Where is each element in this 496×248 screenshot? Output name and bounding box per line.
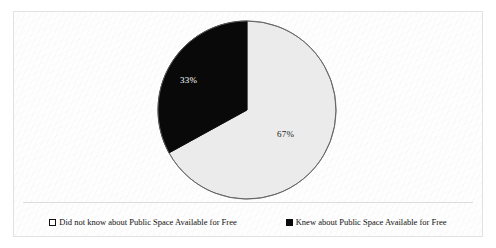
- legend-filled-square-icon: [286, 219, 293, 226]
- pie-data-label-did-not-know: 67%: [277, 129, 294, 139]
- legend-open-square-icon: [49, 219, 56, 226]
- chart-legend: Did not know about Public Space Availabl…: [14, 210, 482, 234]
- legend-label-knew: Knew about Public Space Available for Fr…: [296, 218, 447, 227]
- legend-item-did-not-know[interactable]: Did not know about Public Space Availabl…: [49, 218, 236, 227]
- legend-label-did-not-know: Did not know about Public Space Availabl…: [59, 218, 236, 227]
- pie-data-label-knew: 33%: [180, 75, 197, 85]
- legend-item-knew[interactable]: Knew about Public Space Available for Fr…: [286, 218, 447, 227]
- pie-chart-plot-area: 33% 67%: [14, 12, 482, 198]
- legend-divider: [23, 202, 473, 203]
- chart-frame: 33% 67% Did not know about Public Space …: [13, 11, 483, 237]
- pie-chart-svg: [156, 19, 338, 201]
